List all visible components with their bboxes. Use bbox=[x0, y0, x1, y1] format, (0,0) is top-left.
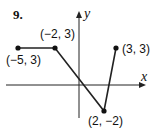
point-neg5-3 bbox=[15, 45, 20, 50]
y-axis-arrow-icon bbox=[76, 11, 82, 18]
y-axis-label: y bbox=[82, 6, 91, 21]
point-2-neg2 bbox=[101, 108, 106, 113]
label-3-3: (3, 3) bbox=[122, 42, 150, 56]
label-neg2-3: (−2, 3) bbox=[40, 27, 75, 41]
label-2-neg2: (2, −2) bbox=[88, 114, 123, 128]
problem-number: 9. bbox=[13, 7, 23, 22]
x-axis-label: x bbox=[140, 69, 148, 84]
point-3-3 bbox=[113, 45, 118, 50]
label-neg5-3: (−5, 3) bbox=[6, 53, 41, 67]
graph: 9. y x (−5, 3) (−2, 3) (2, −2) (3, 3) bbox=[0, 0, 152, 129]
point-neg2-3 bbox=[52, 45, 57, 50]
